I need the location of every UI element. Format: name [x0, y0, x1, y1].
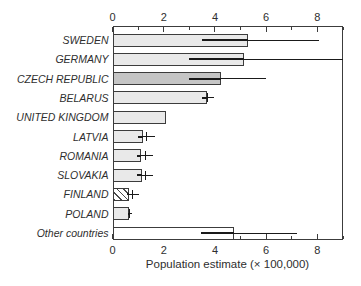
bar [113, 91, 208, 104]
x-axis-tick [214, 27, 215, 32]
x-axis-tick [343, 236, 344, 239]
error-bar-center-tick [146, 132, 147, 141]
error-bar-outer-segment [143, 136, 155, 137]
x-axis-tick-label: 8 [307, 244, 327, 256]
category-label: FINLAND [64, 187, 109, 201]
error-bar-outer-segment [244, 59, 343, 60]
category-label: GERMANY [55, 52, 108, 66]
x-axis-tick-label: 8 [307, 11, 327, 23]
category-label: LATVIA [73, 130, 108, 144]
x-axis-tick [291, 236, 292, 239]
error-bar-outer-segment [142, 175, 154, 176]
category-label: UNITED KINGDOM [16, 110, 108, 124]
error-bar-outer-segment [234, 233, 297, 234]
error-bar-center-tick [129, 209, 130, 218]
error-bar-outer-segment [248, 40, 318, 41]
error-bar-outer-segment [129, 194, 139, 195]
x-axis-tick [138, 27, 139, 30]
error-bar-inner-segment [202, 39, 248, 41]
error-bar-outer-segment [221, 78, 266, 79]
error-bar-center-tick [145, 151, 146, 160]
x-axis-tick [343, 27, 344, 30]
x-axis-tick-label: 2 [154, 244, 174, 256]
error-bar-center-tick [207, 93, 208, 102]
category-label: SLOVAKIA [57, 168, 108, 182]
x-axis-tick [189, 27, 190, 30]
x-axis-tick-label: 6 [256, 11, 276, 23]
category-label: BELARUS [59, 91, 108, 105]
x-axis-tick-label: 4 [205, 11, 225, 23]
x-axis-title: Population estimate (× 100,000) [112, 258, 343, 270]
x-axis-tick [240, 27, 241, 30]
x-axis-tick [163, 27, 164, 32]
x-axis-tick-label: 2 [154, 11, 174, 23]
category-label: CZECH REPUBLIC [17, 72, 109, 86]
error-bar-inner-segment [201, 232, 234, 234]
bar [113, 207, 130, 220]
bar-chart: Population estimate (× 100,000) 00224466… [0, 0, 361, 286]
x-axis-tick [266, 27, 267, 32]
x-axis-tick [240, 236, 241, 239]
x-axis-tick [317, 234, 318, 239]
error-bar-center-tick [132, 190, 133, 199]
x-axis-tick-label: 4 [205, 244, 225, 256]
error-bar-outer-segment [141, 155, 154, 156]
error-bar-inner-segment [189, 78, 221, 80]
error-bar-center-tick [145, 171, 146, 180]
x-axis-tick-label: 0 [103, 11, 123, 23]
x-axis-tick-label: 6 [256, 244, 276, 256]
bar [113, 111, 167, 124]
category-label: Other countries [37, 226, 109, 240]
x-axis-tick [112, 27, 113, 32]
x-axis-tick [266, 234, 267, 239]
category-label: ROMANIA [59, 149, 108, 163]
x-axis-tick-label: 0 [103, 244, 123, 256]
error-bar-inner-segment [189, 58, 244, 60]
category-label: SWEDEN [62, 33, 108, 47]
x-axis-tick [291, 27, 292, 30]
category-label: POLAND [65, 207, 108, 221]
population-estimate-figure: Population estimate (× 100,000) 00224466… [0, 0, 361, 286]
x-axis-tick [317, 27, 318, 32]
